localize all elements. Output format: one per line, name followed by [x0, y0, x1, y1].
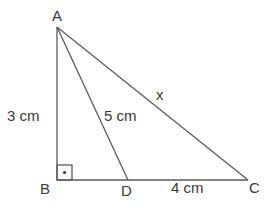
vertex-label-c: C — [249, 179, 260, 196]
triangle-diagram: A B D C 3 cm 5 cm x 4 cm — [0, 0, 269, 208]
length-label-ab: 3 cm — [7, 107, 40, 124]
length-label-ac: x — [156, 86, 164, 103]
length-label-dc: 4 cm — [171, 179, 204, 196]
length-label-ad: 5 cm — [104, 107, 137, 124]
segment-ac — [57, 27, 248, 180]
vertex-label-a: A — [52, 7, 62, 24]
vertex-label-b: B — [40, 180, 50, 197]
vertex-label-d: D — [121, 182, 132, 199]
segment-ad — [57, 27, 128, 180]
right-angle-dot — [63, 171, 66, 174]
